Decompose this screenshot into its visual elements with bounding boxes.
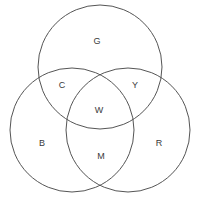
venn-label-cyan: C (59, 81, 66, 90)
venn-label-yellow: Y (132, 81, 138, 90)
venn-label-magenta: M (97, 152, 105, 161)
venn-circle-blue (10, 68, 134, 192)
venn-diagram: G C Y W B M R (0, 0, 199, 200)
venn-circles-graphic (0, 0, 199, 200)
venn-label-blue: B (39, 139, 45, 148)
venn-circle-red (66, 68, 190, 192)
venn-label-white: W (95, 106, 104, 115)
venn-label-red: R (156, 139, 163, 148)
venn-label-green: G (93, 37, 100, 46)
